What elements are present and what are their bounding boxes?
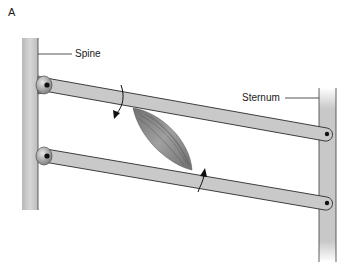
lower-sternum-pin bbox=[325, 201, 329, 205]
sternum-label: Sternum bbox=[242, 92, 280, 103]
spine-label: Spine bbox=[75, 48, 101, 59]
upper-sternum-pin bbox=[325, 132, 329, 136]
intercostal-muscle bbox=[133, 108, 192, 170]
upper-rib-bar bbox=[44, 78, 333, 141]
spine-post bbox=[22, 38, 38, 210]
sternum-post bbox=[319, 88, 336, 262]
upper-ball-joint bbox=[36, 76, 52, 94]
rib-mechanics-diagram bbox=[0, 0, 354, 277]
lower-ball-joint bbox=[36, 147, 52, 165]
